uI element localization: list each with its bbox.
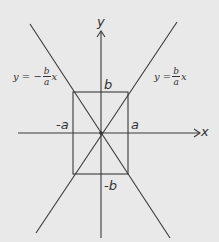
diagram-canvas bbox=[0, 0, 219, 242]
label-b: b bbox=[104, 78, 112, 91]
eq-neg-num: b bbox=[43, 66, 51, 77]
eq-pos-fraction: b a bbox=[172, 66, 180, 87]
eq-pos-den: a bbox=[173, 77, 178, 87]
origin-point bbox=[99, 131, 103, 135]
x-axis-label: x bbox=[201, 125, 209, 138]
eq-pos-num: b bbox=[172, 66, 180, 77]
y-axis-label: y bbox=[97, 15, 105, 28]
eq-neg-var: x bbox=[52, 72, 58, 82]
label-a: a bbox=[131, 118, 139, 131]
eq-neg-fraction: b a bbox=[43, 66, 51, 87]
asymptote-negative-slope bbox=[30, 24, 170, 238]
eq-pos-var: x bbox=[181, 72, 187, 82]
eq-neg-lhs: y = − bbox=[13, 72, 42, 82]
eq-pos-lhs: y = bbox=[154, 72, 171, 82]
equation-positive-asymptote: y = b a x bbox=[154, 66, 187, 87]
label-neg-b: -b bbox=[104, 179, 117, 192]
label-neg-a: -a bbox=[56, 118, 69, 131]
eq-neg-den: a bbox=[44, 77, 49, 87]
equation-negative-asymptote: y = − b a x bbox=[13, 66, 57, 87]
